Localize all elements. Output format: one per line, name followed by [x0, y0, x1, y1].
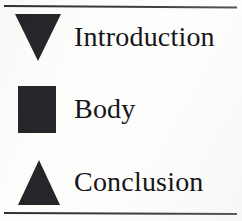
list-item: Conclusion: [0, 158, 242, 206]
triangle-up-icon: [0, 160, 73, 205]
bottom-divider-rule: [4, 212, 237, 215]
top-divider-rule: [4, 5, 237, 8]
list-item-label: Conclusion: [74, 168, 204, 196]
list-item-label: Body: [74, 95, 135, 123]
triangle-down-icon: [0, 14, 73, 61]
presentation-structure-figure: Introduction Body Conclusion: [0, 0, 242, 221]
square-icon: [0, 86, 73, 133]
list-item-label: Introduction: [74, 23, 215, 51]
list-item: Introduction: [0, 12, 242, 62]
list-item: Body: [0, 85, 242, 133]
